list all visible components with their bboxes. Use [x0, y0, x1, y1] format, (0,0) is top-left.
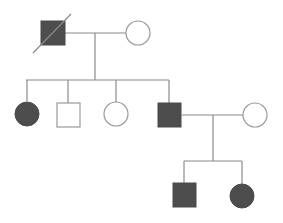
individual-III-1-affected-male — [173, 183, 196, 207]
individual-II-4-affected-male — [158, 103, 181, 127]
pedigree-chart — [0, 0, 283, 223]
individual-II-2-unaffected-male — [57, 103, 80, 127]
individual-II-3-unaffected-female — [104, 102, 128, 126]
individual-II-5-unaffected-female — [243, 103, 267, 127]
individual-II-1-affected-female — [15, 102, 39, 126]
individual-III-2-affected-female — [230, 184, 254, 208]
individual-I-2-unaffected-female — [126, 21, 150, 45]
